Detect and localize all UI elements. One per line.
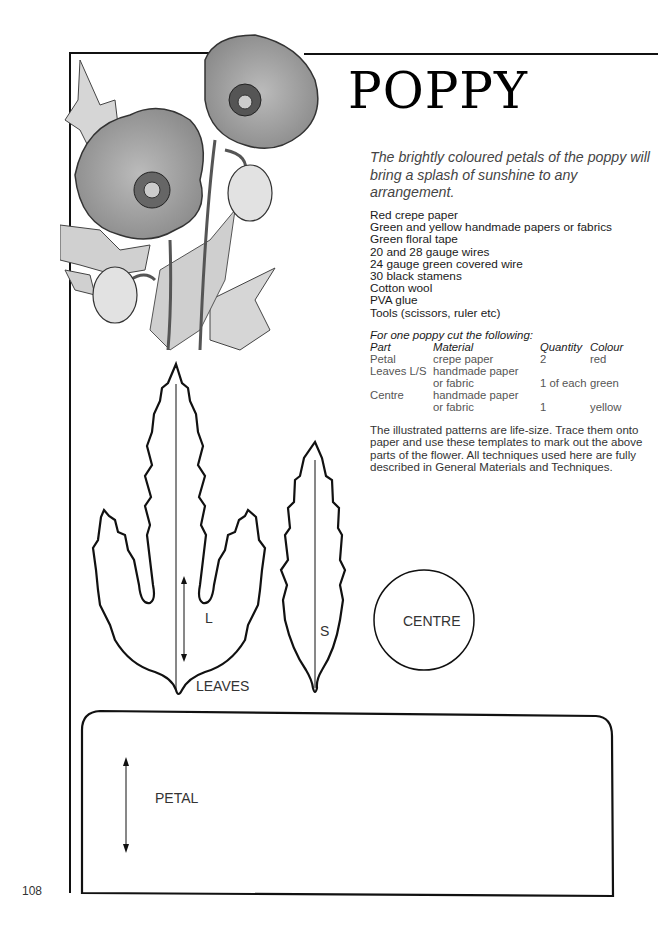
- cell-material: handmade paper: [433, 389, 540, 401]
- page-title: POPPY: [348, 66, 528, 116]
- materials-item: Tools (scissors, ruler etc): [370, 307, 612, 319]
- intro-text: The brightly coloured petals of the popp…: [370, 149, 658, 202]
- column-header-quantity: Quantity: [540, 341, 590, 353]
- cell-colour: yellow: [590, 401, 635, 413]
- cell-part: Petal: [370, 353, 433, 365]
- cell-colour: red: [590, 353, 635, 365]
- cell-material-cont: or fabric: [433, 401, 540, 413]
- leaves-label: LEAVES: [196, 678, 249, 694]
- leaf-small-label: S: [320, 623, 329, 639]
- cell-quantity: 1: [540, 401, 590, 413]
- centre-label: CENTRE: [403, 613, 461, 629]
- cutting-table: Part Material Quantity Colour Petal crep…: [370, 341, 635, 413]
- cell-part: Leaves L/S: [370, 365, 433, 377]
- column-header-colour: Colour: [590, 341, 635, 353]
- frame-top-rule-right: [304, 53, 658, 55]
- table-row-continued: or fabric 1 of each green: [370, 377, 635, 389]
- cutting-heading: For one poppy cut the following:: [370, 329, 533, 341]
- table-row: Leaves L/S handmade paper: [370, 365, 635, 377]
- cell-quantity: 2: [540, 353, 590, 365]
- petal-label: PETAL: [155, 790, 198, 806]
- cell-material-cont: or fabric: [433, 377, 540, 389]
- cell-colour: green: [590, 377, 635, 389]
- table-row: Petal crepe paper 2 red: [370, 353, 635, 365]
- materials-item: 20 and 28 gauge wires: [370, 246, 612, 258]
- cell-part: Centre: [370, 389, 433, 401]
- cell-quantity: 1 of each: [540, 377, 590, 389]
- table-header-row: Part Material Quantity Colour: [370, 341, 635, 353]
- cell-material: crepe paper: [433, 353, 540, 365]
- cell-material: handmade paper: [433, 365, 540, 377]
- column-header-part: Part: [370, 341, 433, 353]
- poppy-illustration: [60, 30, 350, 360]
- table-row: Centre handmade paper: [370, 389, 635, 401]
- table-row-continued: or fabric 1 yellow: [370, 401, 635, 413]
- instructions-text: The illustrated patterns are life-size. …: [370, 424, 658, 474]
- leaf-large-label: L: [205, 610, 213, 626]
- leaf-small-template: [281, 442, 345, 692]
- materials-list: Red crepe paper Green and yellow handmad…: [370, 209, 612, 319]
- materials-item: PVA glue: [370, 294, 612, 306]
- materials-item: Green floral tape: [370, 233, 612, 245]
- column-header-material: Material: [433, 341, 540, 353]
- page-number: 108: [22, 884, 42, 898]
- leaf-large-template: [93, 364, 265, 694]
